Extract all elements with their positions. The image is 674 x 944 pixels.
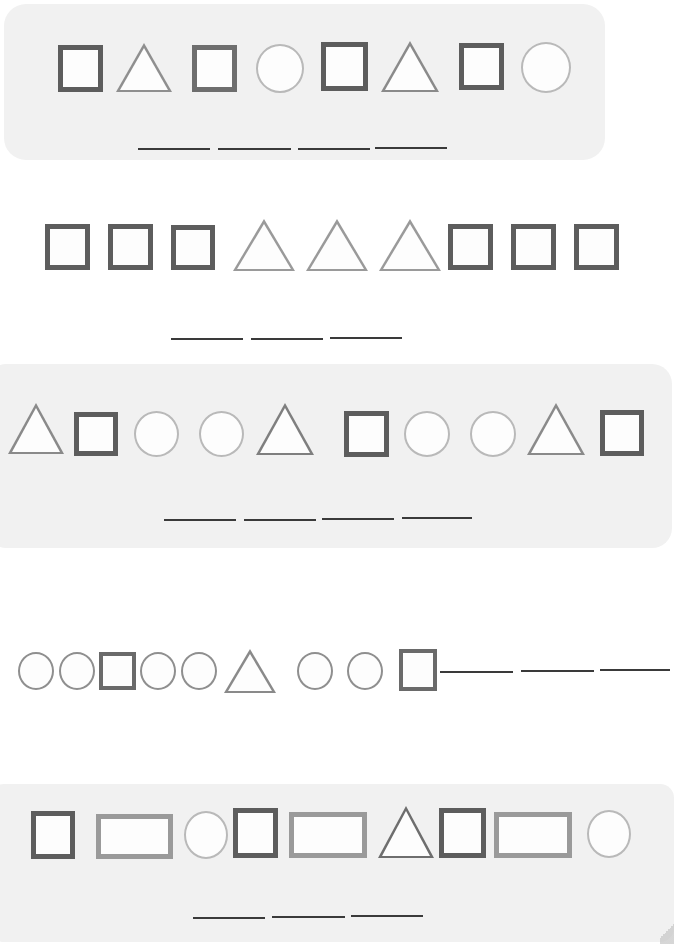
answer-blank[interactable] — [322, 518, 394, 520]
shape-square — [192, 45, 237, 92]
answer-blank[interactable] — [440, 671, 513, 673]
shape-square — [31, 811, 75, 859]
shape-square — [574, 224, 619, 270]
answer-blank[interactable] — [218, 148, 291, 150]
shape-triangle — [256, 403, 314, 455]
shape-triangle — [233, 219, 295, 271]
answer-blank[interactable] — [600, 669, 670, 671]
row-3-panel — [0, 364, 672, 548]
shape-triangle — [116, 43, 172, 92]
shape-square — [233, 808, 278, 858]
shape-circle — [134, 411, 179, 457]
shape-square — [171, 225, 215, 270]
shape-triangle — [381, 41, 439, 92]
shape-circle — [256, 44, 304, 93]
shape-square — [108, 224, 153, 270]
shape-circle — [59, 652, 95, 690]
shape-square — [58, 45, 103, 92]
shape-square — [74, 412, 118, 456]
shape-circle — [587, 810, 631, 858]
shape-circle — [521, 42, 571, 93]
shape-rectangle — [494, 812, 572, 858]
shape-square — [321, 42, 368, 91]
answer-blank[interactable] — [138, 148, 210, 150]
shape-circle — [184, 811, 228, 859]
row-5-panel — [0, 784, 674, 942]
answer-blank[interactable] — [272, 916, 345, 918]
answer-blank[interactable] — [375, 147, 447, 149]
shape-square — [439, 808, 486, 858]
shape-circle — [199, 411, 244, 457]
answer-blank[interactable] — [171, 338, 243, 340]
shape-rectangle — [96, 814, 173, 859]
answer-blank[interactable] — [244, 519, 316, 521]
shape-triangle — [527, 403, 585, 455]
shape-circle — [18, 652, 54, 690]
page-corner-mark — [660, 918, 674, 944]
answer-blank[interactable] — [298, 148, 370, 150]
shape-square — [600, 410, 644, 456]
shape-square — [399, 649, 437, 691]
shape-triangle — [379, 219, 441, 271]
shape-triangle — [224, 649, 276, 693]
shape-square — [511, 224, 556, 270]
shape-circle — [181, 652, 217, 690]
answer-blank[interactable] — [164, 519, 236, 521]
shape-square — [459, 43, 504, 90]
shape-circle — [470, 411, 516, 457]
answer-blank[interactable] — [402, 517, 472, 519]
shape-triangle — [306, 219, 368, 271]
shape-circle — [404, 411, 450, 457]
shape-circle — [140, 652, 176, 690]
answer-blank[interactable] — [521, 670, 594, 672]
shape-triangle — [378, 806, 434, 858]
worksheet-page — [0, 0, 674, 944]
answer-blank[interactable] — [351, 915, 423, 917]
shape-square — [99, 652, 136, 690]
shape-square — [448, 224, 493, 270]
answer-blank[interactable] — [330, 337, 402, 339]
shape-circle — [297, 652, 333, 690]
shape-square — [344, 411, 389, 457]
shape-square — [45, 224, 90, 270]
shape-rectangle — [289, 812, 367, 858]
answer-blank[interactable] — [193, 917, 265, 919]
shape-triangle — [8, 403, 64, 454]
shape-circle — [347, 652, 383, 690]
answer-blank[interactable] — [251, 338, 323, 340]
